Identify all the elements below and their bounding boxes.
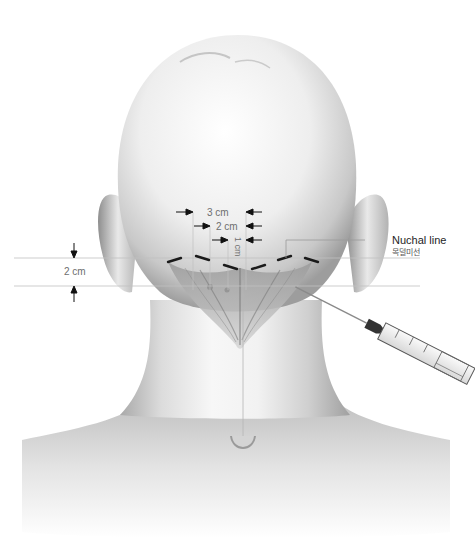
figure-canvas: 3 cm 2 cm 1 cm 2 cm Nuchal line 목덜미선 bbox=[0, 0, 475, 559]
label-3cm: 3 cm bbox=[207, 208, 229, 218]
label-1cm-vertical: 1 cm bbox=[233, 237, 243, 257]
illustration bbox=[0, 0, 475, 559]
nuchal-line-label-korean: 목덜미선 bbox=[392, 249, 420, 257]
nuchal-line-label: Nuchal line bbox=[392, 235, 446, 246]
label-2cm-horizontal: 2 cm bbox=[216, 222, 238, 232]
label-2cm-vertical: 2 cm bbox=[64, 267, 86, 277]
